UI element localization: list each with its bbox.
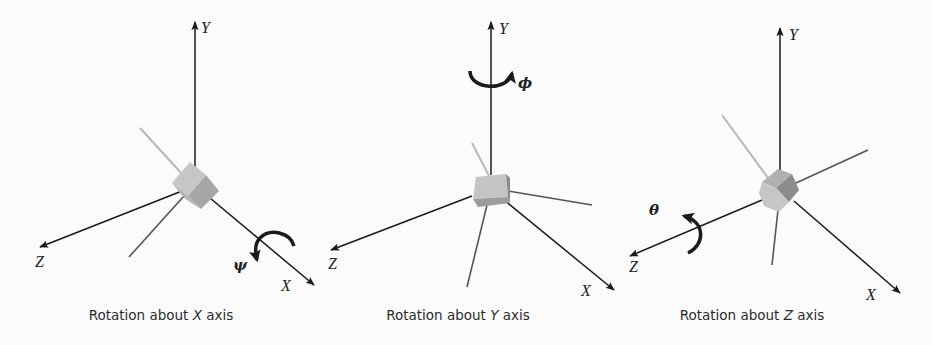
rotated-axis-dark bbox=[508, 191, 592, 205]
phi-symbol: ϕ bbox=[518, 76, 532, 91]
z-axis-arrow bbox=[40, 191, 182, 247]
panel-rotation-z bbox=[630, 28, 900, 293]
caption-rotation-y: Rotation about Y axis bbox=[386, 307, 530, 323]
caption-axis: Y bbox=[490, 307, 498, 323]
z-axis-label: Z bbox=[629, 259, 638, 275]
rotated-axis-light bbox=[722, 115, 768, 178]
y-axis-label: Y bbox=[789, 27, 798, 43]
x-axis-arrow bbox=[794, 201, 900, 293]
rotated-axis-light bbox=[472, 143, 490, 178]
rotated-axis-light bbox=[140, 128, 182, 174]
theta-symbol: θ bbox=[649, 203, 659, 218]
caption-suffix: axis bbox=[498, 307, 529, 323]
x-axis-arrow bbox=[504, 200, 614, 290]
caption-rotation-x: Rotation about X axis bbox=[89, 307, 234, 323]
rotation-diagram bbox=[0, 0, 932, 345]
z-axis-arrow bbox=[331, 196, 472, 250]
cube-icon bbox=[473, 174, 510, 207]
rotated-axis-dark bbox=[467, 205, 487, 287]
caption-rotation-z: Rotation about Z axis bbox=[680, 307, 825, 323]
panel-rotation-y bbox=[331, 22, 614, 290]
x-axis-label: X bbox=[281, 278, 291, 294]
rotated-axis-dark bbox=[129, 196, 184, 257]
y-axis-label: Y bbox=[499, 21, 508, 37]
caption-prefix: Rotation about bbox=[680, 307, 784, 323]
caption-suffix: axis bbox=[793, 307, 824, 323]
caption-axis: X bbox=[193, 307, 202, 323]
caption-prefix: Rotation about bbox=[386, 307, 490, 323]
x-axis-label: X bbox=[581, 283, 591, 299]
x-axis-label: X bbox=[866, 287, 876, 303]
rotated-axis-dark bbox=[796, 150, 868, 183]
caption-axis: Z bbox=[784, 307, 793, 323]
panel-rotation-x bbox=[40, 22, 314, 285]
z-axis-label: Z bbox=[328, 256, 337, 272]
rotation-arrow-theta bbox=[684, 216, 701, 253]
y-axis-label: Y bbox=[201, 20, 210, 36]
z-axis-label: Z bbox=[35, 254, 44, 270]
rotated-axis-dark bbox=[772, 210, 778, 265]
caption-prefix: Rotation about bbox=[89, 307, 193, 323]
rotation-arrow-psi bbox=[256, 232, 294, 260]
psi-symbol: ψ bbox=[233, 258, 247, 273]
caption-suffix: axis bbox=[202, 307, 233, 323]
